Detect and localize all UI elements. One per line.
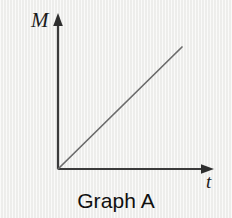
data-line-series-1: [58, 47, 182, 169]
y-axis-arrowhead-icon: [53, 13, 63, 26]
plot-canvas: [0, 0, 232, 218]
figure-caption: Graph A: [0, 189, 232, 212]
graph-figure: M t Graph A: [0, 0, 232, 218]
y-axis-label: M: [31, 10, 49, 31]
